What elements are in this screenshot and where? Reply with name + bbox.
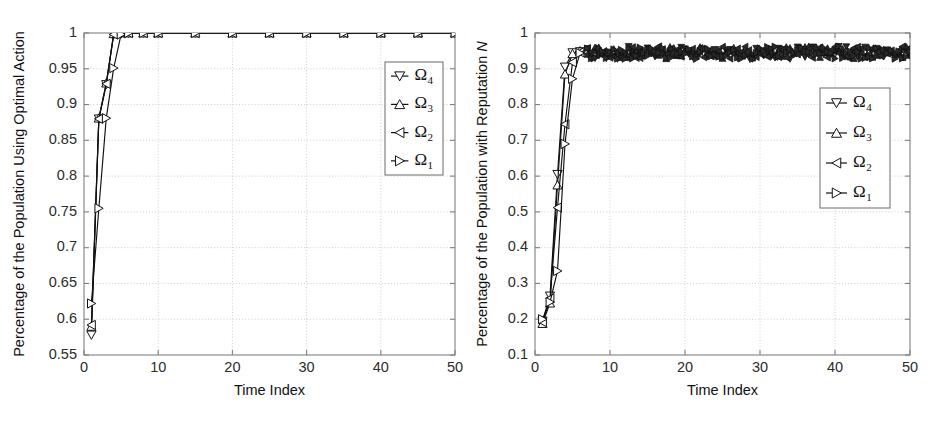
data-marker-triangle-down: [87, 331, 96, 339]
chart-svg-left: 0.550.60.650.70.750.80.850.90.9510102030…: [0, 0, 468, 424]
y-tick-label: 0.6: [57, 310, 77, 326]
x-tick-label: 30: [752, 359, 768, 375]
x-tick-label: 40: [373, 359, 389, 375]
y-tick-label: 0.9: [508, 60, 528, 76]
x-tick-label: 20: [677, 359, 693, 375]
figure-two-panel-line-charts: 0.550.60.650.70.750.80.850.90.9510102030…: [0, 0, 935, 424]
legend-right[interactable]: Ω4Ω3Ω2Ω1: [820, 88, 890, 208]
chart-panel-left: 0.550.60.650.70.750.80.850.90.9510102030…: [0, 0, 468, 424]
y-tick-label: 0.9: [57, 95, 77, 111]
y-tick-label: 0.95: [49, 60, 77, 76]
chart-svg-right: 0.10.20.30.40.50.60.70.80.9101020304050T…: [467, 0, 935, 424]
y-tick-label: 0.55: [49, 346, 77, 362]
x-tick-label: 50: [902, 359, 918, 375]
x-tick-label: 10: [602, 359, 618, 375]
y-tick-label: 0.6: [508, 167, 528, 183]
x-tick-label: 0: [531, 359, 539, 375]
x-axis-title: Time Index: [234, 382, 306, 398]
y-tick-label: 1: [69, 24, 77, 40]
x-tick-label: 30: [299, 359, 315, 375]
chart-panel-right: 0.10.20.30.40.50.60.70.80.9101020304050T…: [467, 0, 935, 424]
y-tick-label: 0.75: [49, 203, 77, 219]
data-marker-triangle-right: [569, 74, 577, 83]
y-tick-label: 1: [520, 24, 528, 40]
y-tick-label: 0.3: [508, 274, 528, 290]
y-axis-title: Percentage of the Population Using Optim…: [11, 31, 27, 357]
x-axis-title: Time Index: [687, 382, 759, 398]
data-marker-triangle-up: [553, 181, 562, 189]
x-tick-label: 50: [447, 359, 463, 375]
x-tick-label: 0: [80, 359, 88, 375]
y-tick-label: 0.2: [508, 310, 528, 326]
x-tick-label: 10: [150, 359, 166, 375]
y-tick-label: 0.85: [49, 131, 77, 147]
legend-left[interactable]: Ω4Ω3Ω2Ω1: [385, 62, 443, 175]
y-tick-label: 0.1: [508, 346, 528, 362]
x-tick-label: 40: [827, 359, 843, 375]
y-tick-label: 0.7: [57, 238, 77, 254]
x-tick-label: 20: [224, 359, 240, 375]
y-tick-label: 0.8: [508, 95, 528, 111]
y-tick-label: 0.8: [57, 167, 77, 183]
y-axis-title: Percentage of the Population with Reputa…: [474, 41, 490, 347]
y-tick-label: 0.5: [508, 203, 528, 219]
y-tick-label: 0.4: [508, 238, 528, 254]
y-tick-label: 0.7: [508, 131, 528, 147]
y-tick-label: 0.65: [49, 274, 77, 290]
